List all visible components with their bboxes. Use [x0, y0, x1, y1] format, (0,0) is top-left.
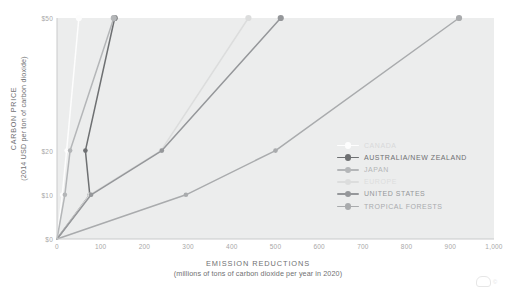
y-tick-3: $50: [7, 15, 53, 22]
legend-item-united-states[interactable]: UNITED STATES: [337, 188, 507, 200]
watermark-icon: [476, 276, 491, 287]
series-1: [57, 15, 118, 239]
chart-figure: $0$10$20$50 0100200300400500600700800900…: [0, 0, 516, 293]
x-tick-8: 800: [401, 243, 412, 250]
x-tick-1: 100: [95, 243, 106, 250]
x-axis-tick-labels: 01002003004005006007008009001,000: [0, 243, 516, 257]
x-tick-5: 500: [270, 243, 281, 250]
x-tick-0: 0: [55, 243, 59, 250]
y-axis-title: CARBON PRICE (2014 USD per ton of carbon…: [9, 23, 30, 213]
x-tick-4: 400: [226, 243, 237, 250]
legend-swatch-icon: [337, 189, 359, 198]
x-tick-2: 200: [139, 243, 150, 250]
x-tick-3: 300: [182, 243, 193, 250]
legend-label: AUSTRALIA/NEW ZEALAND: [364, 154, 467, 161]
legend-item-japan[interactable]: JAPAN: [337, 163, 507, 175]
x-axis-title-sub: (millions of tons of carbon dioxide per …: [0, 269, 516, 280]
x-tick-10: 1,000: [485, 243, 502, 250]
watermark-text: ©: [493, 279, 497, 285]
legend-swatch-icon: [337, 177, 359, 186]
legend-swatch-icon: [337, 141, 359, 150]
legend-swatch-icon: [337, 153, 359, 162]
legend-item-tropical-forests[interactable]: TROPICAL FORESTS: [337, 200, 507, 212]
legend-label: CANADA: [364, 142, 396, 149]
x-tick-9: 900: [445, 243, 456, 250]
legend-swatch-icon: [337, 202, 359, 211]
legend-item-europe[interactable]: EUROPE: [337, 176, 507, 188]
watermark: ©: [476, 276, 497, 287]
x-axis-title: EMISSION REDUCTIONS (millions of tons of…: [0, 258, 516, 280]
legend-label: EUROPE: [364, 178, 397, 185]
chart-legend: CANADAAUSTRALIA/NEW ZEALANDJAPANEUROPEUN…: [337, 139, 507, 212]
x-tick-7: 700: [357, 243, 368, 250]
legend-label: JAPAN: [364, 166, 389, 173]
y-axis-title-sub: (2014 USD per ton of carbon dioxide): [19, 23, 29, 213]
legend-swatch-icon: [337, 165, 359, 174]
legend-item-australia-new-zealand[interactable]: AUSTRALIA/NEW ZEALAND: [337, 151, 507, 163]
legend-label: UNITED STATES: [364, 190, 425, 197]
x-axis-title-main: EMISSION REDUCTIONS: [0, 258, 516, 269]
legend-item-canada[interactable]: CANADA: [337, 139, 507, 151]
x-tick-6: 600: [313, 243, 324, 250]
legend-label: TROPICAL FORESTS: [364, 203, 443, 210]
y-axis-title-main: CARBON PRICE: [9, 23, 19, 213]
y-tick-0: $0: [7, 236, 53, 243]
